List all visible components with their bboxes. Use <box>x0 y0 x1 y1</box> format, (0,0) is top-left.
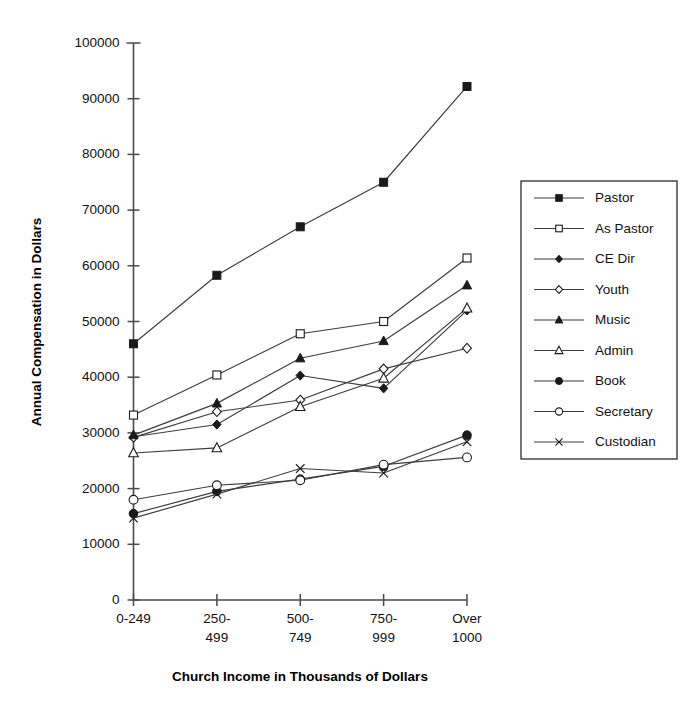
x-tick-label: 250- <box>203 611 230 626</box>
legend-label: CE Dir <box>595 251 635 266</box>
data-point-open-circle <box>212 481 221 490</box>
chart-legend: PastorAs PastorCE DirYouthMusicAdminBook… <box>521 181 677 459</box>
data-point-filled-square <box>463 82 471 90</box>
data-point-open-square <box>463 254 471 262</box>
data-point-open-circle <box>296 476 305 485</box>
y-tick-label: 10000 <box>82 536 120 551</box>
data-point-open-square <box>130 411 138 419</box>
data-point-open-circle <box>555 408 562 415</box>
legend-label: Custodian <box>595 434 656 449</box>
y-tick-label: 80000 <box>82 146 120 161</box>
y-tick-label: 90000 <box>82 91 120 106</box>
data-point-open-circle <box>379 460 388 469</box>
data-point-filled-square <box>380 178 388 186</box>
y-tick-label: 60000 <box>82 258 120 273</box>
legend-label: As Pastor <box>595 221 654 236</box>
y-tick-label: 50000 <box>82 314 120 329</box>
data-point-open-square <box>556 225 563 232</box>
x-axis-title: Church Income in Thousands of Dollars <box>172 669 428 684</box>
x-tick-label: 500- <box>287 611 314 626</box>
y-tick-label: 40000 <box>82 369 120 384</box>
x-tick-label: 0-249 <box>116 611 151 626</box>
x-tick-label: 999 <box>372 630 395 645</box>
x-tick-label: Over <box>452 611 482 626</box>
y-tick-label: 20000 <box>82 481 120 496</box>
x-tick-label: 749 <box>289 630 312 645</box>
legend-label: Youth <box>595 282 629 297</box>
y-axis-title: Annual Compensation in Dollars <box>29 218 44 427</box>
legend-label: Admin <box>595 343 633 358</box>
data-point-open-circle <box>463 453 472 462</box>
data-point-open-square <box>213 371 221 379</box>
data-point-filled-circle <box>555 377 562 384</box>
line-chart: 0100002000030000400005000060000700008000… <box>0 0 700 704</box>
data-point-filled-square <box>213 271 221 279</box>
y-tick-label: 0 <box>112 592 120 607</box>
legend-label: Pastor <box>595 190 635 205</box>
data-point-open-square <box>296 330 304 338</box>
data-point-open-circle <box>129 495 138 504</box>
legend-label: Book <box>595 373 626 388</box>
legend-label: Music <box>595 312 631 327</box>
chart-figure: 0100002000030000400005000060000700008000… <box>0 0 700 704</box>
y-tick-label: 100000 <box>74 35 119 50</box>
data-point-filled-square <box>296 223 304 231</box>
x-tick-label: 1000 <box>452 630 482 645</box>
x-tick-label: 750- <box>370 611 397 626</box>
y-tick-label: 70000 <box>82 202 120 217</box>
x-tick-label: 499 <box>206 630 229 645</box>
data-point-open-square <box>380 318 388 326</box>
data-point-filled-square <box>130 340 138 348</box>
legend-label: Secretary <box>595 404 653 419</box>
data-point-filled-square <box>556 195 563 202</box>
y-tick-label: 30000 <box>82 425 120 440</box>
